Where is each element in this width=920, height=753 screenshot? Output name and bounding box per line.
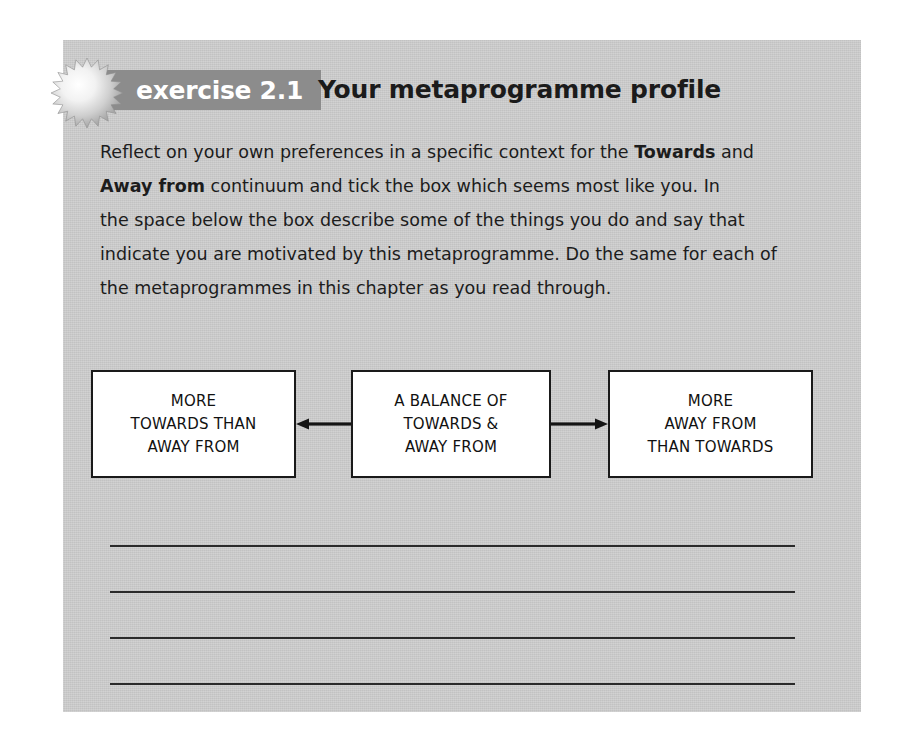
option-box-balance[interactable]: A BALANCE OF TOWARDS & AWAY FROM — [351, 370, 551, 478]
exercise-instructions: Reflect on your own preferences in a spe… — [100, 135, 830, 305]
arrow-right-icon — [551, 417, 608, 431]
option-box-line: AWAY FROM — [664, 413, 756, 436]
option-box-line: TOWARDS THAN — [131, 413, 257, 436]
instruction-text: and — [715, 142, 754, 162]
arrow-left-icon — [296, 417, 351, 431]
instruction-line: the metaprogrammes in this chapter as yo… — [100, 271, 830, 305]
option-box-more-away-from[interactable]: MORE AWAY FROM THAN TOWARDS — [608, 370, 813, 478]
answer-line[interactable] — [110, 545, 795, 547]
option-box-line: A BALANCE OF — [394, 390, 507, 413]
option-box-more-towards[interactable]: MORE TOWARDS THAN AWAY FROM — [91, 370, 296, 478]
page-canvas: exercise 2.1 Your metaprogramme profile — [0, 0, 920, 753]
instruction-text: continuum and tick the box which seems m… — [205, 176, 720, 196]
answer-line[interactable] — [110, 591, 795, 593]
exercise-number-label: exercise 2.1 — [94, 78, 321, 103]
answer-lines — [110, 545, 795, 685]
term-away-from: Away from — [100, 176, 205, 196]
option-box-line: THAN TOWARDS — [648, 436, 774, 459]
option-box-line: TOWARDS & — [403, 413, 498, 436]
term-towards: Towards — [634, 142, 715, 162]
page-title: Your metaprogramme profile — [318, 72, 721, 108]
exercise-panel: exercise 2.1 Your metaprogramme profile — [63, 40, 861, 712]
instruction-line: Away from continuum and tick the box whi… — [100, 169, 830, 203]
continuum-diagram: MORE TOWARDS THAN AWAY FROM A BALANCE OF… — [63, 365, 861, 490]
instruction-line: Reflect on your own preferences in a spe… — [100, 135, 830, 169]
answer-line[interactable] — [110, 683, 795, 685]
option-box-line: MORE — [171, 390, 216, 413]
option-box-line: AWAY FROM — [147, 436, 239, 459]
instruction-line: indicate you are motivated by this metap… — [100, 237, 830, 271]
instruction-line: the space below the box describe some of… — [100, 203, 830, 237]
option-box-line: AWAY FROM — [405, 436, 497, 459]
option-box-line: MORE — [688, 390, 733, 413]
answer-line[interactable] — [110, 637, 795, 639]
exercise-header: exercise 2.1 Your metaprogramme profile — [63, 70, 861, 114]
exercise-number-badge: exercise 2.1 — [94, 70, 321, 110]
instruction-text: Reflect on your own preferences in a spe… — [100, 142, 634, 162]
